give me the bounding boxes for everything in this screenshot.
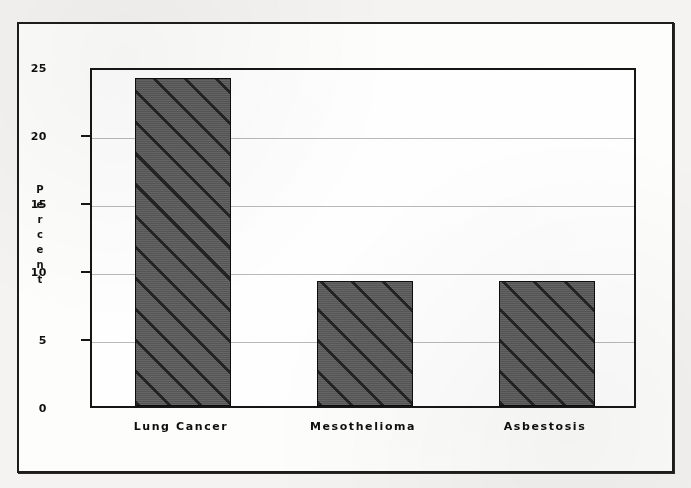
y-axis-tick-mark [81, 135, 90, 137]
plot-area [90, 68, 636, 408]
y-axis-tick-label: 5 [7, 334, 47, 347]
y-axis-tick-mark [81, 271, 90, 273]
x-axis-tick-label: Asbestosis [435, 420, 655, 433]
bar [499, 281, 595, 406]
y-axis-tick-mark [81, 203, 90, 205]
y-axis-title-letter: P [31, 182, 49, 197]
bar [317, 281, 413, 406]
y-axis-tick-mark [81, 339, 90, 341]
y-axis-title-letter: r [31, 212, 49, 227]
y-axis-tick-label: 25 [7, 62, 47, 75]
bar-chart: P e r c e n t 0510152025 Lung CancerMeso… [19, 24, 672, 471]
y-axis-tick-label: 10 [7, 266, 47, 279]
y-axis-title-letter: e [31, 242, 49, 257]
y-axis-tick-label: 15 [7, 198, 47, 211]
figure-outer-frame: P e r c e n t 0510152025 Lung CancerMeso… [17, 22, 674, 473]
y-axis-title-letter: c [31, 227, 49, 242]
bar [135, 78, 231, 406]
y-axis-tick-label: 20 [7, 130, 47, 143]
y-axis-tick-label: 0 [7, 402, 47, 415]
scanned-figure-page: P e r c e n t 0510152025 Lung CancerMeso… [0, 0, 691, 488]
